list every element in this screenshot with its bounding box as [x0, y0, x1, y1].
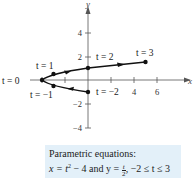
- label-t1: t = 1: [36, 61, 54, 71]
- point-t-neg1: [51, 84, 55, 88]
- parametric-curve: [42, 62, 146, 92]
- caption-title: Parametric equations:: [49, 147, 177, 160]
- arrow-icon: [64, 71, 71, 75]
- eq-x-part: x = t: [49, 163, 68, 174]
- x-tick-label-4: 4: [132, 87, 137, 97]
- y-tick-label-neg2: −2: [73, 99, 82, 109]
- label-t-neg1: t = −1: [30, 90, 53, 100]
- y-tick-label-2: 2: [78, 52, 82, 62]
- label-t2: t = 2: [96, 52, 114, 62]
- x-tick-label-6: 6: [155, 87, 159, 97]
- arrow-icon: [67, 87, 74, 91]
- caption-box: Parametric equations: x = t2 − 4 and y =…: [45, 145, 181, 178]
- label-t3: t = 3: [136, 48, 154, 58]
- eq-range: , −2 ≤ t ≤ 3: [126, 163, 170, 174]
- label-t0: t = 0: [2, 76, 20, 86]
- caption-equation: x = t2 − 4 and y = t2, −2 ≤ t ≤ 3: [49, 160, 177, 177]
- y-tick-label-4: 4: [78, 28, 83, 38]
- point-t2: [86, 66, 90, 70]
- eq-mid-part: − 4 and y =: [71, 163, 122, 174]
- point-t1: [51, 72, 55, 76]
- point-t0: [40, 78, 44, 82]
- label-t-neg2: t = −2: [96, 87, 119, 97]
- point-t3: [143, 60, 147, 64]
- point-t-neg2: [86, 90, 90, 94]
- y-axis-label: y: [85, 0, 90, 9]
- x-axis-label: x: [187, 76, 192, 86]
- y-tick-label-neg4: −4: [73, 123, 83, 133]
